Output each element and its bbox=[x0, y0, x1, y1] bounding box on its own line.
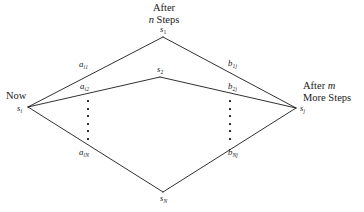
edge-line-b-1j bbox=[163, 37, 296, 108]
edge-lines-layer bbox=[0, 0, 364, 212]
heading-after-m-line1-rest: After bbox=[303, 80, 328, 91]
right-ellipsis bbox=[229, 100, 231, 140]
ellipsis-dot bbox=[87, 123, 89, 125]
edge-subscript: Nj bbox=[233, 152, 238, 158]
ellipsis-dot bbox=[87, 108, 89, 110]
heading-after-n-steps-line1: After bbox=[153, 2, 175, 13]
node-subscript: N bbox=[164, 198, 168, 204]
node-symbol: s bbox=[160, 193, 163, 203]
ellipsis-dot bbox=[229, 115, 231, 117]
edge-subscript: 1j bbox=[233, 63, 237, 69]
left-ellipsis bbox=[87, 100, 89, 140]
ellipsis-dot bbox=[229, 138, 231, 140]
node-label-midN: sN bbox=[160, 194, 167, 204]
edge-line-a-iN bbox=[28, 107, 163, 192]
edge-label-a-iN: aiN bbox=[79, 148, 89, 158]
edge-subscript: i1 bbox=[84, 64, 88, 70]
node-subscript: i bbox=[21, 108, 23, 114]
edge-symbol: b bbox=[228, 81, 232, 91]
edge-symbol: a bbox=[79, 59, 83, 69]
node-symbol: s bbox=[157, 64, 160, 74]
ellipsis-dot bbox=[229, 108, 231, 110]
node-label-mid2: s2 bbox=[157, 65, 163, 75]
heading-after-m-italic-m: m bbox=[328, 80, 336, 91]
edge-subscript: i2 bbox=[85, 86, 89, 92]
edge-symbol: a bbox=[80, 81, 84, 91]
node-subscript: j bbox=[304, 108, 306, 114]
edge-label-a-i1: ai1 bbox=[79, 60, 88, 70]
edge-subscript: 2j bbox=[233, 86, 237, 92]
node-subscript: 1 bbox=[164, 29, 167, 35]
heading-after-m-line2: More Steps bbox=[303, 92, 351, 103]
ellipsis-dot bbox=[229, 123, 231, 125]
ellipsis-dot bbox=[87, 130, 89, 132]
ellipsis-dot bbox=[87, 100, 89, 102]
heading-now-text: Now bbox=[6, 90, 26, 101]
node-label-end: sj bbox=[300, 104, 305, 114]
ellipsis-dot bbox=[87, 138, 89, 140]
heading-after-n-steps-line2-rest: Steps bbox=[154, 14, 179, 25]
edge-symbol: b bbox=[228, 147, 232, 157]
heading-after-n-steps: After n Steps bbox=[122, 2, 206, 26]
node-symbol: s bbox=[160, 24, 163, 34]
edge-label-b-1j: b1j bbox=[228, 59, 237, 69]
heading-now: Now bbox=[6, 90, 58, 102]
node-symbol: s bbox=[300, 103, 303, 113]
edge-label-a-i2: ai2 bbox=[80, 82, 89, 92]
figure-canvas: After n Steps Now After m More Steps sis… bbox=[0, 0, 364, 212]
ellipsis-dot bbox=[229, 100, 231, 102]
heading-after-m-more-steps: After m More Steps bbox=[303, 80, 363, 104]
node-label-now: si bbox=[17, 104, 22, 114]
node-subscript: 2 bbox=[161, 69, 164, 75]
edge-label-b-Nj: bNj bbox=[228, 148, 238, 158]
edge-symbol: b bbox=[228, 58, 232, 68]
node-symbol: s bbox=[17, 103, 20, 113]
edge-label-b-2j: b2j bbox=[228, 82, 237, 92]
node-label-mid1: s1 bbox=[160, 25, 166, 35]
ellipsis-dot bbox=[229, 130, 231, 132]
edge-group bbox=[28, 37, 296, 192]
ellipsis-dot bbox=[87, 115, 89, 117]
edge-symbol: a bbox=[79, 147, 83, 157]
edge-subscript: iN bbox=[84, 152, 89, 158]
